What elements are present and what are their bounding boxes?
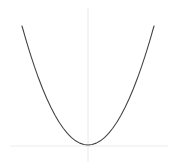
plot-background xyxy=(0,0,178,165)
plot-canvas xyxy=(0,0,178,165)
parabola-plot-figure xyxy=(0,0,178,165)
